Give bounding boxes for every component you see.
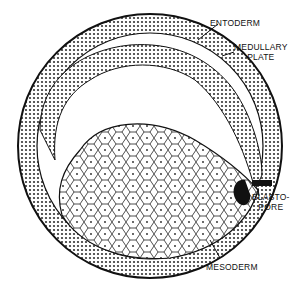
label-blastopore-line2: PORE [252, 202, 290, 212]
label-blastopore-line1: BLASTO- [252, 192, 290, 202]
label-medullary-plate: MEDULLARY PLATE [234, 42, 288, 62]
label-medullary-line2: PLATE [234, 52, 288, 62]
label-medullary-line1: MEDULLARY [234, 42, 288, 52]
label-entoderm: ENTODERM [210, 18, 260, 28]
blastopore-lip [252, 180, 272, 186]
label-blastopore: BLASTO- PORE [252, 192, 290, 212]
label-mesoderm: MESODERM [206, 262, 258, 272]
